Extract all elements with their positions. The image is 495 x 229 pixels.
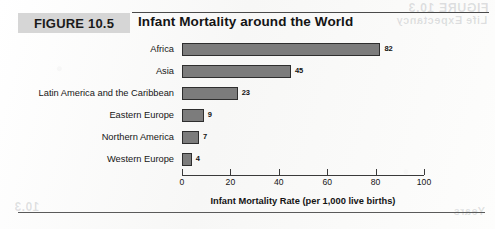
x-axis-tick [230, 169, 231, 175]
category-label: Western Europe [0, 154, 174, 164]
category-label: Eastern Europe [0, 110, 174, 120]
bar-value-label: 45 [295, 67, 303, 75]
bar-value-label: 82 [384, 45, 392, 53]
bar-group: 9 [182, 109, 212, 122]
bar [182, 109, 204, 122]
bar [182, 65, 291, 78]
x-axis-tick-label: 60 [322, 177, 332, 187]
bleed-through-text-bottom-right: Years [453, 205, 485, 217]
category-label: Africa [0, 44, 174, 54]
footer-rule [18, 212, 485, 213]
x-axis-tick [327, 169, 328, 175]
x-axis-tick-label: 20 [226, 177, 236, 187]
bar [182, 153, 192, 166]
bar-value-label: 23 [242, 89, 250, 97]
category-label: Northern America [0, 132, 174, 142]
bar-group: 82 [182, 43, 393, 56]
x-axis-tick-label: 100 [417, 177, 431, 187]
x-axis-tick-label: 80 [371, 177, 381, 187]
bar-row: Eastern Europe9 [0, 104, 495, 126]
x-axis-line [182, 175, 424, 176]
x-axis-tick-label: 0 [180, 177, 185, 187]
bar [182, 87, 238, 100]
bar-value-label: 7 [203, 133, 207, 141]
x-axis-tick [424, 169, 425, 175]
x-axis-title: Infant Mortality Rate (per 1,000 live bi… [182, 196, 424, 206]
bar-chart-plot-area: Africa82Asia45Latin America and the Cari… [0, 36, 495, 186]
header-rule [132, 12, 489, 13]
x-axis-tick [182, 169, 183, 175]
x-axis-tick-label: 40 [274, 177, 284, 187]
bar-value-label: 4 [196, 155, 200, 163]
bar-row: Northern America7 [0, 126, 495, 148]
bar-group: 23 [182, 87, 250, 100]
bar-row: Africa82 [0, 38, 495, 60]
bar [182, 43, 380, 56]
figure-number-label: FIGURE 10.5 [34, 16, 114, 31]
category-label: Asia [0, 66, 174, 76]
bar-row: Western Europe4 [0, 148, 495, 170]
x-axis-tick [376, 169, 377, 175]
figure-number-badge: FIGURE 10.5 [18, 13, 130, 33]
bleed-through-text-top-2: Life Expectancy [396, 14, 487, 26]
x-axis-tick [279, 169, 280, 175]
bar-group: 7 [182, 131, 207, 144]
bar-row: Asia45 [0, 60, 495, 82]
bar-value-label: 9 [208, 111, 212, 119]
bar-group: 45 [182, 65, 303, 78]
chart-title: Infant Mortality around the World [138, 14, 353, 29]
bar-group: 4 [182, 153, 200, 166]
bar [182, 131, 199, 144]
category-label: Latin America and the Caribbean [0, 88, 174, 98]
bar-row: Latin America and the Caribbean23 [0, 82, 495, 104]
